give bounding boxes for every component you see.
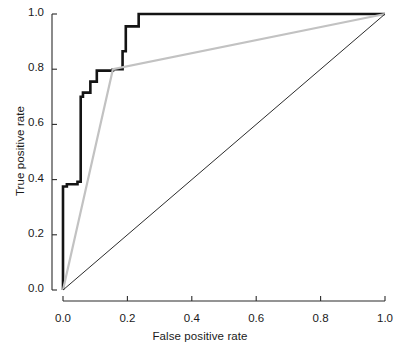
data-series-group [63,14,385,290]
x-tick-label: 0.0 [43,312,83,324]
chance-diagonal [63,14,385,290]
x-axis-title: False positive rate [0,330,400,342]
y-tick-label: 0.0 [10,282,44,294]
x-tick-label: 1.0 [365,312,400,324]
y-axis-ticks [52,14,57,290]
x-tick-label: 0.4 [172,312,212,324]
plot-canvas [0,0,400,353]
roc-chart-figure: 0.00.20.40.60.81.0 0.00.20.40.60.81.0 Fa… [0,0,400,353]
x-tick-label: 0.2 [107,312,147,324]
y-tick-label: 1.0 [10,6,44,18]
x-tick-label: 0.8 [301,312,341,324]
y-axis [52,14,57,290]
x-axis [63,296,385,301]
y-axis-title: True positive rate [14,71,26,231]
x-axis-ticks [63,296,385,301]
x-tick-label: 0.6 [236,312,276,324]
